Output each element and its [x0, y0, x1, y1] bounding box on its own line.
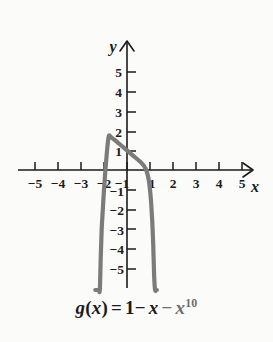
caption-function-name: g — [75, 297, 85, 318]
x-tick-label: −3 — [74, 176, 89, 191]
x-tick-label: 4 — [216, 176, 223, 191]
function-plot: −5 −4 −3 −2 −1 1 2 3 4 5 5 4 3 2 1 −1 −2… — [0, 0, 273, 342]
caption-constant: 1 — [125, 297, 135, 318]
y-tick-label: −5 — [110, 262, 125, 277]
formula-caption: g(x)=1−x−x10 — [0, 296, 273, 319]
y-axis-label: y — [107, 38, 117, 56]
y-tick-label: −4 — [110, 242, 125, 257]
y-tick-label: 5 — [115, 65, 122, 80]
y-tick-label: −2 — [110, 203, 125, 218]
y-tick-label: 2 — [115, 125, 122, 140]
caption-minus-2: − — [161, 297, 172, 318]
caption-close-paren: ) — [101, 297, 108, 318]
caption-power-term: x — [175, 297, 185, 318]
y-tick-label: 3 — [115, 105, 122, 120]
x-tick-label: 3 — [193, 176, 200, 191]
graph-figure: −5 −4 −3 −2 −1 1 2 3 4 5 5 4 3 2 1 −1 −2… — [0, 0, 273, 342]
y-tick-label: 4 — [115, 85, 122, 100]
caption-linear-term: x — [149, 297, 159, 318]
caption-exponent: 10 — [185, 296, 197, 310]
x-tick-label: 5 — [239, 176, 246, 191]
y-tick-label: −3 — [110, 223, 125, 238]
function-curve — [95, 135, 157, 292]
x-axis-label: x — [250, 178, 259, 195]
caption-minus-1: − — [135, 297, 146, 318]
x-tick-label: 2 — [170, 176, 177, 191]
caption-variable: x — [92, 297, 102, 318]
y-tick-label: −1 — [110, 184, 125, 199]
x-tick-label: −5 — [28, 176, 43, 191]
caption-equals: = — [111, 297, 122, 318]
x-axis-ticks — [35, 162, 242, 170]
x-tick-label: −4 — [51, 176, 66, 191]
